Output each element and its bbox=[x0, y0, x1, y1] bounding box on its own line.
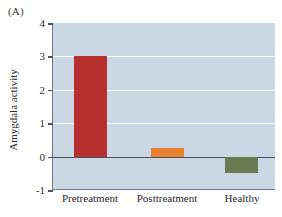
x-label-healthy: Healthy bbox=[225, 192, 260, 204]
y-tick-2 bbox=[48, 90, 53, 92]
y-tick-4 bbox=[48, 23, 53, 25]
x-label-posttreatment: Posttreatment bbox=[137, 192, 198, 204]
y-tick-minus1 bbox=[48, 190, 53, 192]
figure-panel-a: (A) Amygdala activity 4 3 2 1 0 -1 Pretr… bbox=[0, 0, 282, 217]
y-tick-3 bbox=[48, 56, 53, 58]
y-tick-label-1: 1 bbox=[40, 117, 46, 129]
y-tick-label-3: 3 bbox=[40, 50, 46, 62]
y-tick-label-4: 4 bbox=[40, 17, 46, 29]
x-label-pretreatment: Pretreatment bbox=[62, 192, 118, 204]
y-tick-label-0: 0 bbox=[40, 151, 46, 163]
bar-pretreatment bbox=[74, 56, 107, 156]
y-tick-label-minus1: -1 bbox=[36, 184, 45, 196]
y-tick-label-2: 2 bbox=[40, 84, 46, 96]
bar-posttreatment bbox=[151, 148, 184, 156]
y-tick-1 bbox=[48, 123, 53, 125]
y-axis-title: Amygdala activity bbox=[7, 35, 19, 185]
panel-label: (A) bbox=[8, 5, 24, 17]
x-axis-line bbox=[53, 189, 275, 191]
y-tick-0 bbox=[48, 157, 53, 159]
bar-healthy bbox=[225, 157, 258, 174]
plot-area: 4 3 2 1 0 -1 Pretreatment Posttreatment … bbox=[52, 23, 275, 190]
